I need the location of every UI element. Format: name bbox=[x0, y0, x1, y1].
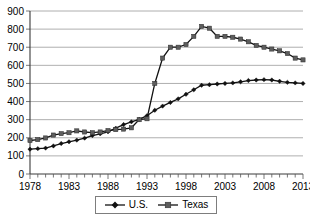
x-axis-tick-label: 1978 bbox=[19, 181, 42, 192]
data-point-marker bbox=[168, 45, 172, 49]
data-point-marker bbox=[75, 129, 79, 133]
data-point-marker bbox=[301, 81, 305, 85]
data-point-marker bbox=[67, 131, 71, 135]
y-axis-tick-label: 900 bbox=[7, 6, 24, 17]
data-point-marker bbox=[207, 26, 211, 30]
x-axis-tick-label: 1993 bbox=[136, 181, 159, 192]
chart-container: 0100200300400500600700800900197819831988… bbox=[0, 0, 310, 218]
data-point-marker bbox=[129, 120, 133, 124]
data-point-marker bbox=[83, 130, 87, 134]
data-point-marker bbox=[161, 56, 165, 60]
data-point-marker bbox=[36, 137, 40, 141]
data-point-marker bbox=[106, 128, 110, 132]
data-point-marker bbox=[122, 127, 126, 131]
y-axis-tick-label: 700 bbox=[7, 42, 24, 53]
x-axis-tick-label: 2008 bbox=[253, 181, 276, 192]
data-point-marker bbox=[192, 34, 196, 38]
data-point-marker bbox=[44, 136, 48, 140]
x-axis-tick-label: 1983 bbox=[58, 181, 81, 192]
chart-legend: U.S. Texas bbox=[95, 196, 217, 214]
data-point-marker bbox=[215, 34, 219, 38]
y-axis-tick-label: 0 bbox=[18, 169, 24, 180]
data-point-marker bbox=[254, 78, 258, 82]
data-point-marker bbox=[98, 130, 102, 134]
data-point-marker bbox=[43, 146, 47, 150]
data-point-marker bbox=[90, 131, 94, 135]
data-point-marker bbox=[184, 42, 188, 46]
data-point-marker bbox=[28, 138, 32, 142]
data-point-marker bbox=[82, 136, 86, 140]
data-point-marker bbox=[59, 132, 63, 136]
line-chart-plot: 0100200300400500600700800900197819831988… bbox=[0, 0, 310, 218]
y-axis-tick-label: 200 bbox=[7, 132, 24, 143]
data-point-marker bbox=[246, 40, 250, 44]
data-point-marker bbox=[137, 118, 141, 122]
data-point-marker bbox=[278, 49, 282, 53]
x-axis-tick-label: 2013 bbox=[292, 181, 310, 192]
data-point-marker bbox=[293, 56, 297, 60]
data-point-marker bbox=[51, 144, 55, 148]
legend-item-texas: Texas bbox=[157, 200, 208, 210]
data-point-marker bbox=[285, 51, 289, 55]
data-point-marker bbox=[36, 146, 40, 150]
x-axis-tick-label: 1988 bbox=[97, 181, 120, 192]
data-point-marker bbox=[59, 141, 63, 145]
data-point-marker bbox=[223, 81, 227, 85]
legend-marker-diamond-icon bbox=[104, 200, 126, 210]
data-point-marker bbox=[28, 147, 32, 151]
data-point-marker bbox=[293, 81, 297, 85]
data-point-marker bbox=[270, 47, 274, 51]
data-point-marker bbox=[153, 81, 157, 85]
y-axis-tick-label: 100 bbox=[7, 150, 24, 161]
data-point-marker bbox=[231, 35, 235, 39]
data-point-marker bbox=[301, 58, 305, 62]
data-point-marker bbox=[51, 133, 55, 137]
data-point-marker bbox=[215, 82, 219, 86]
y-axis-tick-label: 300 bbox=[7, 114, 24, 125]
data-point-marker bbox=[262, 45, 266, 49]
data-point-marker bbox=[67, 140, 71, 144]
y-axis-tick-label: 800 bbox=[7, 24, 24, 35]
legend-item-us: U.S. bbox=[104, 200, 148, 210]
data-point-marker bbox=[75, 138, 79, 142]
series-line-0 bbox=[30, 80, 303, 150]
legend-label-us: U.S. bbox=[129, 200, 148, 210]
series-us bbox=[28, 77, 305, 151]
data-point-marker bbox=[285, 80, 289, 84]
x-axis-tick-label: 1998 bbox=[175, 181, 198, 192]
data-point-marker bbox=[270, 78, 274, 82]
data-point-marker bbox=[129, 126, 133, 130]
data-point-marker bbox=[262, 77, 266, 81]
data-point-marker bbox=[231, 81, 235, 85]
data-point-marker bbox=[168, 100, 172, 104]
data-point-marker bbox=[246, 78, 250, 82]
data-point-marker bbox=[239, 37, 243, 41]
data-point-marker bbox=[114, 128, 118, 132]
data-point-marker bbox=[254, 43, 258, 47]
data-point-marker bbox=[200, 24, 204, 28]
data-point-marker bbox=[223, 34, 227, 38]
y-axis-tick-label: 400 bbox=[7, 96, 24, 107]
y-axis-tick-label: 600 bbox=[7, 60, 24, 71]
legend-label-texas: Texas bbox=[182, 200, 208, 210]
data-point-marker bbox=[145, 117, 149, 121]
y-axis-tick-label: 500 bbox=[7, 78, 24, 89]
data-point-marker bbox=[176, 45, 180, 49]
data-point-marker bbox=[121, 122, 125, 126]
data-point-marker bbox=[277, 79, 281, 83]
legend-marker-square-icon bbox=[157, 200, 179, 210]
x-axis-tick-label: 2003 bbox=[214, 181, 237, 192]
